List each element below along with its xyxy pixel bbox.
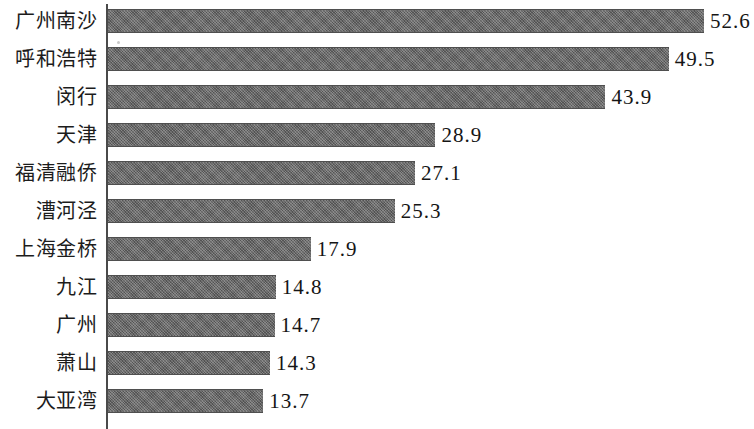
bar [108, 313, 275, 337]
bar-value-label: 52.6 [710, 9, 751, 33]
category-label: 大亚湾 [36, 382, 98, 420]
bar-value-label: 49.5 [675, 47, 716, 71]
bar-row: 呼和浩特49.5 [0, 40, 754, 78]
bar [108, 199, 395, 223]
bar [108, 275, 276, 299]
bar [108, 9, 704, 33]
category-label: 漕河泾 [36, 192, 98, 230]
category-label: 呼和浩特 [15, 40, 97, 78]
bar [108, 47, 669, 71]
bar [108, 123, 435, 147]
bar-row: 萧山14.3 [0, 344, 754, 382]
category-label: 九江 [56, 268, 97, 306]
bar-value-label: 14.7 [281, 313, 322, 337]
bar-row: 广州14.7 [0, 306, 754, 344]
bar-row: 广州南沙52.6 [0, 2, 754, 40]
category-label: 闵行 [56, 78, 97, 116]
bar-row: 大亚湾13.7 [0, 382, 754, 420]
bar-row: 福清融侨27.1 [0, 154, 754, 192]
bar-row: 漕河泾25.3 [0, 192, 754, 230]
bar-value-label: 28.9 [441, 123, 482, 147]
bar-value-label: 14.3 [276, 351, 317, 375]
category-label: 广州南沙 [15, 2, 97, 40]
category-label: 福清融侨 [15, 154, 97, 192]
bar-row: 九江14.8 [0, 268, 754, 306]
bar-value-label: 27.1 [421, 161, 462, 185]
bar [108, 237, 311, 261]
bar-chart: 广州南沙52.6呼和浩特49.5闵行43.9天津28.9福清融侨27.1漕河泾2… [0, 0, 754, 429]
scan-artifact-speck [117, 41, 120, 44]
bar [108, 351, 270, 375]
bar [108, 389, 263, 413]
bar-row: 天津28.9 [0, 116, 754, 154]
bar-row: 上海金桥17.9 [0, 230, 754, 268]
category-label: 天津 [56, 116, 97, 154]
bar-value-label: 25.3 [401, 199, 442, 223]
plot-area: 广州南沙52.6呼和浩特49.5闵行43.9天津28.9福清融侨27.1漕河泾2… [0, 0, 754, 429]
bar-value-label: 17.9 [317, 237, 358, 261]
bar-value-label: 13.7 [269, 389, 310, 413]
bar-value-label: 14.8 [282, 275, 323, 299]
category-label: 上海金桥 [15, 230, 97, 268]
bar-value-label: 43.9 [611, 85, 652, 109]
category-label: 萧山 [56, 344, 97, 382]
bar [108, 85, 605, 109]
bar [108, 161, 415, 185]
bar-row: 闵行43.9 [0, 78, 754, 116]
category-label: 广州 [56, 306, 97, 344]
